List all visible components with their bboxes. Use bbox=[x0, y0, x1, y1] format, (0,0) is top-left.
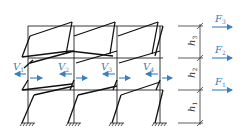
fixed-supports bbox=[20, 123, 167, 126]
deformed-frame bbox=[22, 22, 163, 123]
height-label-h3: h3 bbox=[186, 36, 198, 46]
frame-diagram: F3 F2 F1 V1 V2 V3 V4 h3 h2 h1 bbox=[0, 0, 242, 138]
undeformed-frame bbox=[22, 26, 163, 123]
shear-label-v2: V2 bbox=[58, 61, 69, 73]
force-label-f3: F3 bbox=[214, 13, 226, 25]
force-label-f2: F2 bbox=[214, 44, 226, 56]
shear-label-v1: V1 bbox=[13, 61, 24, 73]
height-label-h2: h2 bbox=[186, 68, 198, 78]
height-label-h1: h1 bbox=[186, 102, 198, 112]
shear-label-v4: V4 bbox=[143, 61, 154, 73]
shear-label-v3: V3 bbox=[101, 61, 112, 73]
shear-arrows bbox=[15, 74, 172, 78]
force-label-f1: F1 bbox=[214, 76, 226, 88]
